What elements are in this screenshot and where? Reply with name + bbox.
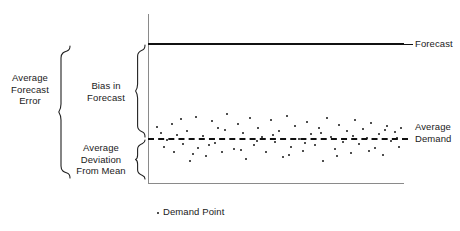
demand-point [338,124,340,126]
demand-point [272,134,274,136]
demand-point [182,143,184,145]
demand-point [294,125,296,127]
demand-point [350,152,352,154]
demand-forecast-error-diagram: Forecast Average Demand Average Forecast… [0,0,460,231]
demand-point [368,150,370,152]
demand-point [346,130,348,132]
forecast-line [148,43,404,45]
demand-point [390,140,392,142]
demand-point [257,127,259,129]
demand-point [370,122,372,124]
demand-point [394,131,396,133]
demand-point [326,117,328,119]
demand-point [354,119,356,121]
demand-point [249,117,251,119]
average-demand-label: Average Demand [415,121,460,144]
y-axis [148,14,149,184]
demand-point [245,158,247,160]
demand-point [156,126,158,128]
demand-point [208,144,210,146]
demand-point [270,119,272,121]
demand-point [288,154,290,156]
demand-point [242,132,244,134]
demand-point [382,154,384,156]
demand-point [163,146,165,148]
demand-point [224,129,226,131]
demand-point [173,151,175,153]
x-axis [148,183,404,184]
demand-point [352,135,354,137]
demand-point [214,142,216,144]
demand-point [322,160,324,162]
demand-point [253,144,255,146]
demand-point [318,127,320,129]
demand-point [310,133,312,135]
demand-point [202,135,204,137]
demand-point [374,147,376,149]
demand-point [256,140,258,142]
demand-point [358,143,360,145]
average-deviation-from-mean-label: Average Deviation From Mean [70,142,132,177]
demand-point [384,129,386,131]
demand-point [189,160,191,162]
demand-point [240,149,242,151]
demand-point [290,146,292,148]
demand-point [314,144,316,146]
demand-point [304,142,306,144]
demand-point [160,132,162,134]
average-deviation-from-mean-brace [135,139,147,180]
demand-point [265,151,267,153]
demand-point [342,141,344,143]
demand-point [386,125,388,127]
demand-point [302,150,304,152]
demand-point [180,118,182,120]
demand-point-legend-marker [157,212,159,214]
demand-point [282,156,284,158]
demand-point [286,115,288,117]
average-forecast-error-label: Average Forecast Error [3,72,57,107]
demand-point [306,121,308,123]
forecast-leader-dash [404,44,413,46]
demand-point [217,127,219,129]
demand-point [398,146,400,148]
demand-point [336,155,338,157]
demand-point [362,128,364,130]
bias-in-forecast-label: Bias in Forecast [79,80,133,103]
demand-point-legend-label: Demand Point [163,206,253,218]
demand-point [221,151,223,153]
demand-point [195,116,197,118]
demand-point [274,141,276,143]
demand-point [205,155,207,157]
demand-point [320,132,322,134]
forecast-label: Forecast [415,38,460,50]
demand-point [176,134,178,136]
demand-point [192,153,194,155]
demand-point [171,123,173,125]
demand-point [400,127,402,129]
demand-point [278,130,280,132]
demand-point [166,139,168,141]
demand-point [237,123,239,125]
bias-in-forecast-brace [135,44,147,139]
demand-point [334,148,336,150]
demand-point [378,133,380,135]
average-demand-line [148,138,408,140]
demand-point [186,130,188,132]
demand-point [226,113,228,115]
demand-point [197,147,199,149]
demand-point [211,120,213,122]
demand-point [233,148,235,150]
